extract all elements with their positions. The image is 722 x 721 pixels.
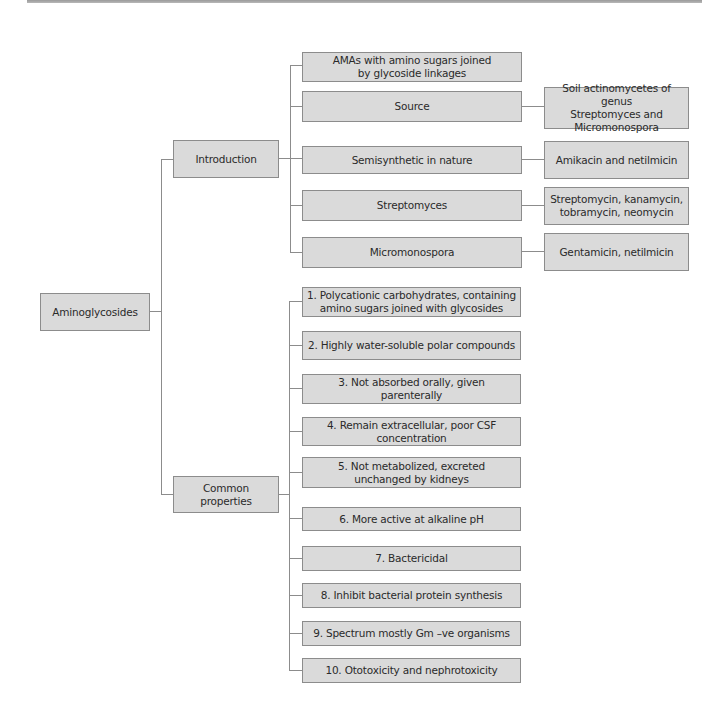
connector (289, 388, 302, 389)
property-node-9: 9. Spectrum mostly Gm –ve organisms (302, 621, 521, 646)
connector (161, 494, 173, 495)
property-node-1: 1. Polycationic carbohydrates, containin… (302, 287, 521, 317)
connector (289, 595, 302, 596)
intro-node-definition: AMAs with amino sugars joined by glycosi… (302, 52, 522, 82)
connector (522, 205, 544, 206)
connector (289, 472, 302, 473)
connector (522, 106, 544, 107)
property-node-7: 7. Bactericidal (302, 546, 521, 571)
connector (161, 159, 173, 160)
connector (161, 159, 162, 494)
connector (290, 106, 302, 107)
detail-node-semisynthetic: Amikacin and netilmicin (544, 141, 689, 179)
property-node-3: 3. Not absorbed orally, given parenteral… (302, 374, 521, 404)
branch-node-introduction: Introduction (173, 140, 279, 178)
intro-node-semisynthetic: Semisynthetic in nature (302, 146, 522, 174)
page-header-rule (27, 0, 702, 3)
connector (522, 251, 544, 252)
connector (289, 558, 302, 559)
connector (522, 159, 544, 160)
intro-node-streptomyces: Streptomyces (302, 190, 522, 221)
connector (290, 252, 302, 253)
property-node-5: 5. Not metabolized, excreted unchanged b… (302, 457, 521, 488)
property-node-4: 4. Remain extracellular, poor CSF concen… (302, 417, 521, 446)
detail-node-micromonospora: Gentamicin, netilmicin (544, 233, 689, 271)
connector (290, 65, 302, 66)
connector (290, 205, 302, 206)
property-node-10: 10. Ototoxicity and nephrotoxicity (302, 658, 521, 683)
property-node-8: 8. Inhibit bacterial protein synthesis (302, 583, 521, 608)
connector (289, 301, 290, 671)
detail-node-streptomyces: Streptomycin, kanamycin, tobramycin, neo… (544, 187, 689, 225)
connector (279, 494, 289, 495)
connector (289, 345, 302, 346)
connector (289, 431, 302, 432)
intro-node-source: Source (302, 91, 522, 122)
root-node-aminoglycosides: Aminoglycosides (40, 293, 150, 331)
connector (289, 518, 302, 519)
property-node-2: 2. Highly water-soluble polar compounds (302, 331, 521, 360)
intro-node-micromonospora: Micromonospora (302, 237, 522, 268)
detail-node-source: Soil actinomycetes of genus Streptomyces… (544, 87, 689, 129)
branch-node-common-properties: Common properties (173, 476, 279, 513)
property-node-6: 6. More active at alkaline pH (302, 507, 521, 531)
connector (289, 301, 302, 302)
connector (289, 670, 302, 671)
connector (290, 65, 291, 253)
connector (289, 633, 302, 634)
